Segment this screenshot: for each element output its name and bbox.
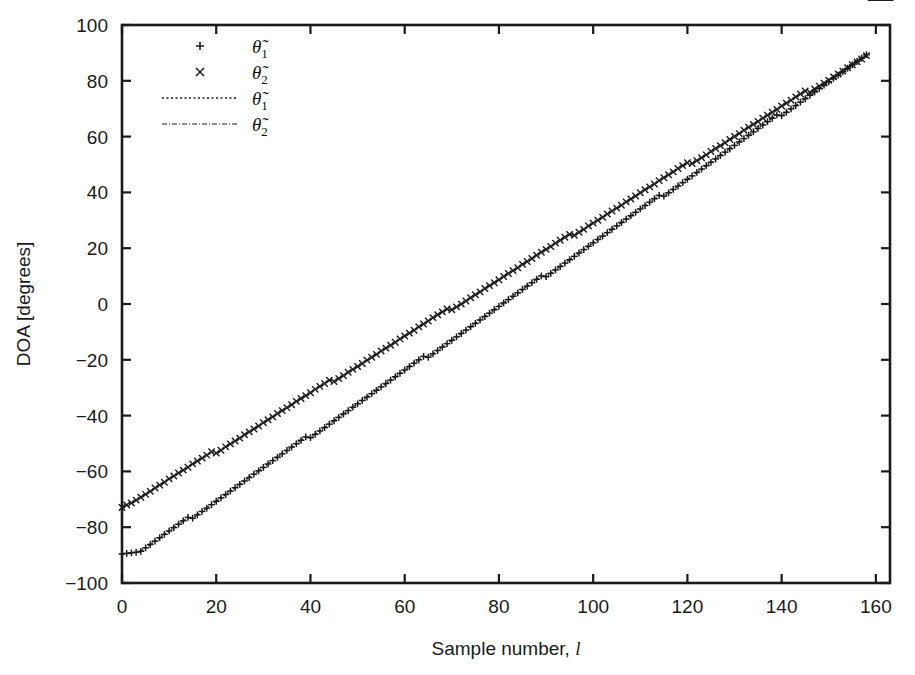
x-tick-label: 120: [672, 596, 704, 617]
x-tick-label: 40: [300, 596, 321, 617]
x-tick-label: 160: [860, 596, 892, 617]
y-axis-title: DOA [degrees]: [13, 242, 34, 367]
y-tick-label: −20: [76, 350, 108, 371]
y-tick-label: −60: [76, 461, 108, 482]
x-tick-label: 140: [766, 596, 798, 617]
y-tick-label: 0: [97, 294, 108, 315]
x-axis-title: Sample number, l: [432, 638, 581, 659]
x-tick-label: 100: [577, 596, 609, 617]
y-tick-label: 40: [87, 182, 108, 203]
y-tick-label: −100: [65, 573, 108, 594]
y-tick-label: −80: [76, 517, 108, 538]
x-tick-label: 60: [394, 596, 415, 617]
doa-estimation-chart: 020406080100120140160−100−80−60−40−20020…: [0, 0, 915, 675]
x-tick-label: 0: [117, 596, 128, 617]
x-tick-label: 20: [206, 596, 227, 617]
y-tick-label: 20: [87, 238, 108, 259]
y-tick-label: 80: [87, 71, 108, 92]
y-tick-label: 60: [87, 127, 108, 148]
x-tick-label: 80: [488, 596, 509, 617]
y-tick-label: 100: [76, 15, 108, 36]
chart-canvas: 020406080100120140160−100−80−60−40−20020…: [0, 0, 915, 675]
y-tick-label: −40: [76, 406, 108, 427]
